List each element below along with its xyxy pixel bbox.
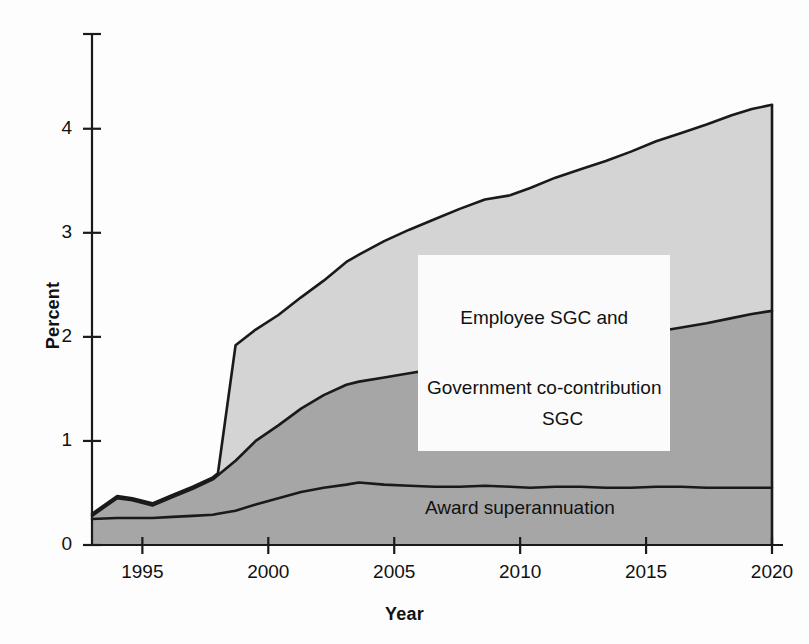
- x-axis-title: Year: [0, 604, 809, 625]
- y-tick-label-0: 0: [32, 534, 72, 553]
- series-label-sgc: SGC: [533, 402, 592, 436]
- series-label-award-superannuation: Award superannuation: [425, 496, 615, 519]
- y-tick-label-1: 1: [32, 430, 72, 449]
- x-tick-label-2020: 2020: [732, 562, 809, 581]
- stacked-area-plot: [0, 0, 809, 644]
- series-label-line-2: Government co-contribution: [427, 376, 661, 399]
- chart-figure: 4 3 2 1 0 1995 2000 2005 2010 2015 2020 …: [0, 0, 809, 644]
- y-tick-label-3: 3: [32, 222, 72, 241]
- x-tick-label-2000: 2000: [228, 562, 308, 581]
- y-tick-label-4: 4: [32, 118, 72, 137]
- x-tick-label-2005: 2005: [354, 562, 434, 581]
- y-axis-title: Percent: [43, 256, 64, 376]
- x-tick-label-2010: 2010: [480, 562, 560, 581]
- x-tick-label-1995: 1995: [102, 562, 182, 581]
- series-label-line-1: Employee SGC and: [427, 306, 661, 329]
- x-tick-label-2015: 2015: [606, 562, 686, 581]
